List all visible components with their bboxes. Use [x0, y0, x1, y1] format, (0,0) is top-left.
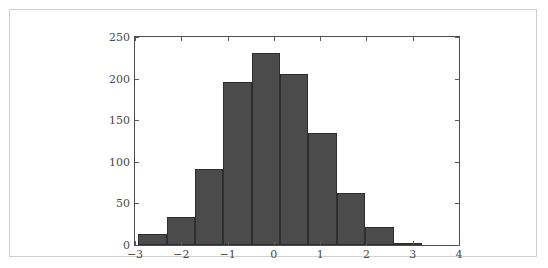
x-axis-tick	[228, 37, 229, 41]
figure-frame: −3−2−101234 050100150200250	[9, 9, 537, 257]
x-tick-label: −1	[219, 248, 235, 261]
x-tick-label: 2	[363, 248, 370, 261]
x-axis-tick	[459, 37, 460, 41]
y-tick-label: 0	[123, 239, 130, 252]
histogram-bar	[280, 74, 308, 245]
x-axis-tick	[181, 37, 182, 41]
x-axis-tick	[366, 241, 367, 245]
histogram-bars	[135, 37, 459, 245]
histogram-bar	[394, 243, 422, 245]
y-axis-tick	[455, 162, 459, 163]
x-tick-label: 4	[456, 248, 463, 261]
y-axis-tick	[135, 203, 139, 204]
y-axis-tick	[455, 245, 459, 246]
y-axis-tick	[455, 37, 459, 38]
y-axis-tick	[135, 37, 139, 38]
x-tick-label: −2	[173, 248, 189, 261]
x-axis-tick	[320, 37, 321, 41]
x-axis-tick	[459, 241, 460, 245]
y-tick-label: 150	[109, 114, 130, 127]
y-tick-label: 200	[109, 72, 130, 85]
y-tick-label: 250	[109, 31, 130, 44]
x-axis-tick	[413, 37, 414, 41]
y-axis-tick	[455, 203, 459, 204]
histogram-bar	[365, 227, 393, 245]
y-axis-tick	[135, 120, 139, 121]
histogram-bar	[223, 82, 251, 245]
x-axis-tick	[181, 241, 182, 245]
x-tick-label: 1	[317, 248, 324, 261]
y-axis-tick	[455, 79, 459, 80]
y-tick-label: 100	[109, 155, 130, 168]
histogram-bar	[195, 169, 223, 245]
x-axis-tick	[228, 241, 229, 245]
y-axis-tick	[135, 162, 139, 163]
y-axis-tick	[135, 245, 139, 246]
x-axis-tick	[274, 241, 275, 245]
histogram-bar	[138, 234, 166, 245]
histogram-bar	[308, 133, 336, 245]
x-tick-label: 3	[409, 248, 416, 261]
x-axis-tick	[413, 241, 414, 245]
histogram-bar	[252, 53, 280, 245]
y-axis-tick	[455, 120, 459, 121]
x-axis-tick	[320, 241, 321, 245]
x-tick-label: 0	[270, 248, 277, 261]
y-axis-tick	[135, 79, 139, 80]
y-tick-label: 50	[116, 197, 130, 210]
x-axis-tick	[274, 37, 275, 41]
x-axis-tick	[366, 37, 367, 41]
histogram-bar	[337, 193, 365, 245]
plot-area: −3−2−101234 050100150200250	[134, 36, 460, 246]
